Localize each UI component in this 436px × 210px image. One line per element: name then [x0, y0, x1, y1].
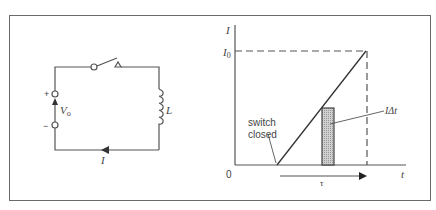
switch-closed-label-line1: switch [248, 117, 276, 128]
tau-arrow-head-icon [359, 172, 367, 180]
switch-blade-icon [97, 58, 117, 66]
wire-top-right [121, 67, 159, 89]
i0-label: I0 [222, 46, 231, 60]
terminal-minus [52, 122, 58, 128]
inductor-coil-icon [159, 89, 163, 150]
i-delta-t-strip [322, 108, 334, 165]
x-axis-label: t [401, 168, 405, 180]
area-leader [330, 111, 384, 124]
terminal-plus [52, 91, 58, 97]
y-axis-label: I [225, 24, 231, 36]
switch-contact-icon [115, 62, 121, 67]
figure-canvas: + − Vo L I I I0 0 t switch closed IΔt τ [0, 0, 436, 210]
minus-label: − [43, 121, 48, 131]
wire-left-top [55, 67, 91, 91]
tau-label: τ [320, 179, 324, 188]
plus-label: + [44, 89, 49, 99]
inductor-label: L [165, 104, 172, 116]
voltage-arrow-head-icon [52, 98, 58, 105]
origin-label: 0 [226, 169, 232, 180]
current-label: I [100, 154, 106, 166]
voltage-label: Vo [60, 104, 71, 118]
i-delta-t-label: IΔt [384, 105, 397, 116]
wire-bottom [55, 128, 159, 150]
current-arrow-icon [101, 146, 109, 154]
switch-closed-label-line2: closed [248, 129, 277, 140]
current-time-graph [235, 25, 406, 180]
switch-pivot [91, 64, 97, 70]
circuit-diagram [52, 58, 163, 154]
